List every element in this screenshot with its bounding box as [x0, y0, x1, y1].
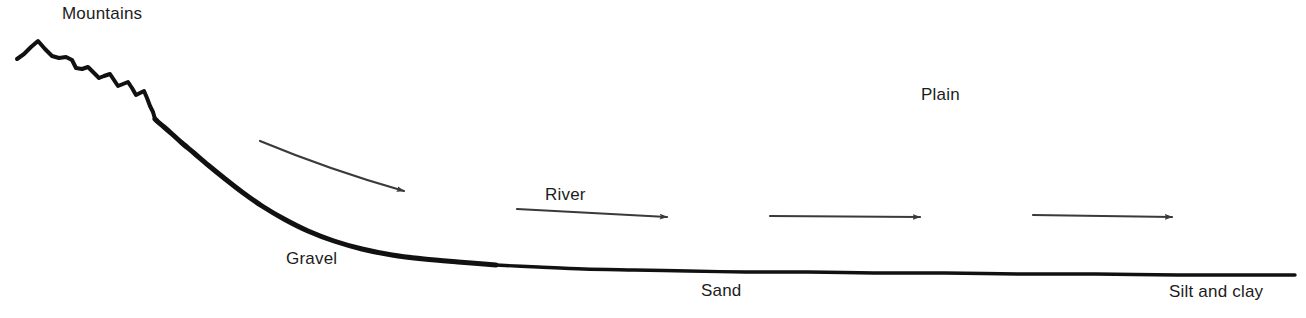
- river-label: River: [545, 185, 586, 204]
- flow-arrow-plain-reach: [770, 216, 920, 217]
- diagram-canvas: Mountains Plain Gravel River Sand Silt a…: [0, 0, 1306, 318]
- silt-and-clay-label: Silt and clay: [1169, 282, 1264, 301]
- mountains-label: Mountains: [62, 4, 142, 23]
- plain-label: Plain: [921, 85, 960, 104]
- gravel-label: Gravel: [286, 249, 337, 268]
- sand-label: Sand: [701, 281, 742, 300]
- river-profile-diagram: Mountains Plain Gravel River Sand Silt a…: [0, 0, 1306, 318]
